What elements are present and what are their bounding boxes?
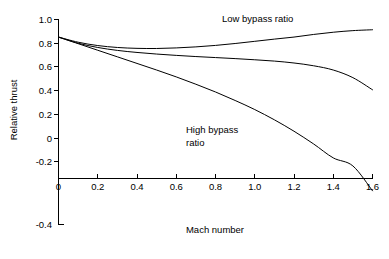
y-tick-label: 0.2: [39, 109, 52, 120]
x-tick-label: 1.2: [287, 181, 300, 192]
annotation-line: ratio: [186, 137, 204, 148]
chart-figure: Relative thrust 1.0 0.8 0.6 0.4 0.2 0 -0…: [0, 0, 389, 259]
y-tick-label: 1.0: [39, 14, 52, 25]
x-tick-label: 0.8: [209, 181, 222, 192]
x-tick-label: 0: [56, 181, 61, 192]
x-tick-label: 1.0: [248, 181, 261, 192]
y-tick-label: -0.2: [36, 156, 52, 167]
curve-low-bypass-ratio: [59, 30, 373, 49]
y-axis-title: Relative thrust: [8, 79, 19, 140]
y-tick-label: 0.6: [39, 61, 52, 72]
x-tick-label: 0.2: [91, 181, 104, 192]
x-axis-title: Mach number: [186, 224, 244, 235]
y-tick-label: -0.4: [36, 219, 52, 230]
y-tick-label: 0.8: [39, 38, 52, 49]
line-chart: Relative thrust 1.0 0.8 0.6 0.4 0.2 0 -0…: [0, 0, 389, 259]
annotation-line: High bypass: [186, 124, 239, 135]
x-tick-label: 0.6: [170, 181, 183, 192]
annotation-low-bypass-ratio: Low bypass ratio: [222, 13, 293, 24]
annotation-high-bypass-ratio: High bypass ratio: [186, 124, 241, 148]
y-tick-label: 0.4: [39, 85, 52, 96]
x-tick-label: 0.4: [130, 181, 143, 192]
x-tick-label: 1.4: [327, 181, 340, 192]
y-tick-label: 0: [47, 133, 52, 144]
y-axis-line: [59, 20, 64, 225]
curve-high-bypass-ratio: [59, 37, 373, 191]
